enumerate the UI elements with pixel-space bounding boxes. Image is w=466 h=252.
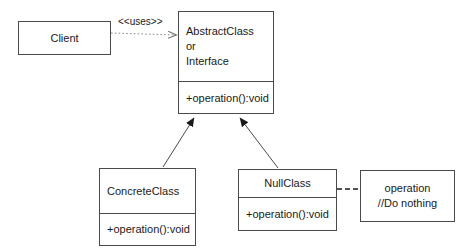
class-name-client: Client — [19, 31, 110, 46]
class-name-interface: Interface — [179, 54, 273, 69]
class-method-null-operation: +operation():void — [239, 207, 336, 222]
class-method-abstract-operation: +operation():void — [179, 91, 273, 106]
edge-uses — [111, 33, 176, 35]
class-node-null-class[interactable]: NullClass +operation():void — [238, 169, 337, 231]
class-method-concrete-operation: +operation():void — [100, 222, 195, 237]
edge-null-generalization — [240, 118, 278, 168]
class-node-concrete-class[interactable]: ConcreteClass +operation():void — [99, 168, 196, 246]
class-node-abstract-class[interactable]: AbstractClass or Interface +operation():… — [178, 11, 274, 114]
class-node-client[interactable]: Client — [18, 21, 111, 55]
class-name-null-class: NullClass — [239, 176, 336, 191]
class-name-abstract-class: AbstractClass — [179, 24, 273, 39]
note-line-do-nothing: //Do nothing — [361, 196, 454, 211]
uml-class-diagram: Client AbstractClass or Interface +opera… — [0, 0, 466, 252]
class-name-separator-or: or — [179, 39, 273, 54]
edge-label-uses: <<uses>> — [118, 16, 162, 27]
note-operation-do-nothing[interactable]: operation //Do nothing — [360, 170, 455, 222]
note-line-operation: operation — [361, 181, 454, 196]
class-name-concrete-class: ConcreteClass — [100, 184, 195, 199]
edge-concrete-generalization — [163, 118, 194, 167]
